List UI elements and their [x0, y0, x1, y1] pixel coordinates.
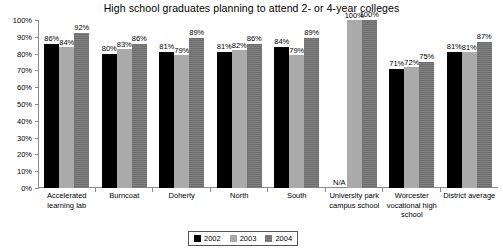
bar-group: 84%79%89%: [268, 20, 326, 188]
y-axis-label: 10%: [17, 167, 32, 176]
bar-cluster: N/A100%100%: [332, 20, 377, 188]
bar-value-label: 84%: [59, 38, 74, 47]
bar-groups: 86%84%92%80%83%86%81%79%89%81%82%86%84%7…: [38, 20, 498, 188]
legend-swatch-icon: [265, 235, 272, 242]
y-axis-label: 40%: [17, 116, 32, 125]
bar-2004: 87%: [477, 42, 492, 188]
legend-item-2002[interactable]: 2002: [194, 234, 221, 243]
bar-cluster: 84%79%89%: [274, 20, 319, 188]
chart-title: High school graduates planning to attend…: [0, 2, 503, 14]
y-axis-label: 80%: [17, 49, 32, 58]
bar-2002: 86%: [44, 44, 59, 188]
bar-group: 71%72%75%: [383, 20, 441, 188]
bar-value-label: 84%: [274, 37, 289, 46]
y-axis-label: 30%: [17, 133, 32, 142]
chart-legend: 200220032004: [188, 231, 298, 246]
category-label: South: [268, 191, 326, 220]
bar-2003: 100%: [347, 20, 362, 188]
bar-value-label: 72%: [404, 58, 419, 67]
category-label: Burncoat: [96, 191, 154, 220]
plot-area: 100%90%80%70%60%50%40%30%20%10%0% 86%84%…: [38, 20, 498, 188]
legend-swatch-icon: [194, 235, 201, 242]
y-axis-label: 90%: [17, 32, 32, 41]
bar-value-label: 79%: [289, 46, 304, 55]
bar-2004: 86%: [132, 44, 147, 188]
bar-value-label: 86%: [247, 34, 262, 43]
bar-2002: 81%: [217, 52, 232, 188]
bar-value-label: 83%: [117, 40, 132, 49]
bar-cluster: 81%79%89%: [159, 20, 204, 188]
y-axis-label: 20%: [17, 150, 32, 159]
bar-2004: 75%: [419, 62, 434, 188]
bar-2003: 79%: [289, 55, 304, 188]
bar-value-label: 89%: [189, 28, 204, 37]
bar-value-label: 86%: [44, 34, 59, 43]
bar-group: 81%79%89%: [153, 20, 211, 188]
legend-swatch-icon: [230, 235, 237, 242]
bar-cluster: 81%82%86%: [217, 20, 262, 188]
category-label: Worcester vocational high school: [383, 191, 441, 220]
bar-value-label: 86%: [132, 34, 147, 43]
y-axis-tick: [35, 188, 39, 189]
y-axis-label: 100%: [13, 16, 32, 25]
bar-2002: 84%: [274, 47, 289, 188]
bar-2003: 82%: [232, 50, 247, 188]
bar-value-label: 80%: [102, 44, 117, 53]
bar-value-label: 92%: [74, 23, 89, 32]
bar-2002: 81%: [447, 52, 462, 188]
y-axis-label: 60%: [17, 83, 32, 92]
bar-value-label: 79%: [174, 46, 189, 55]
bar-2003: 81%: [462, 52, 477, 188]
bar-group: 81%82%86%: [211, 20, 269, 188]
bar-chart: High school graduates planning to attend…: [0, 0, 503, 252]
bar-2003: 79%: [174, 55, 189, 188]
y-axis-label: 0%: [21, 184, 32, 193]
category-labels: Accelerated learning labBurncoatDohertyN…: [38, 191, 498, 220]
legend-label: 2003: [240, 234, 257, 243]
bar-group: 86%84%92%: [38, 20, 96, 188]
y-axis-label: 70%: [17, 66, 32, 75]
bar-cluster: 80%83%86%: [102, 20, 147, 188]
bar-value-label: 75%: [419, 52, 434, 61]
y-axis-label: 50%: [17, 100, 32, 109]
bar-2002: 81%: [159, 52, 174, 188]
bar-value-label: 81%: [217, 42, 232, 51]
bar-value-label: 87%: [477, 32, 492, 41]
legend-item-2004[interactable]: 2004: [265, 234, 292, 243]
bar-2004: 92%: [74, 33, 89, 188]
bar-na-label: N/A: [333, 178, 346, 187]
bar-2002: 71%: [389, 69, 404, 188]
bar-2004: 89%: [189, 38, 204, 188]
bar-group: N/A100%100%: [326, 20, 384, 188]
bar-2004: 86%: [247, 44, 262, 188]
category-label: North: [211, 191, 269, 220]
bar-missing-2002: N/A: [332, 20, 347, 188]
bar-value-label: 100%: [360, 10, 379, 19]
bar-cluster: 86%84%92%: [44, 20, 89, 188]
category-label: University park campus school: [326, 191, 384, 220]
category-label: Accelerated learning lab: [38, 191, 96, 220]
bar-value-label: 71%: [389, 59, 404, 68]
legend-item-2003[interactable]: 2003: [230, 234, 257, 243]
bar-2003: 84%: [59, 47, 74, 188]
bar-value-label: 81%: [447, 42, 462, 51]
bar-2003: 72%: [404, 67, 419, 188]
bar-value-label: 89%: [304, 28, 319, 37]
bar-value-label: 81%: [159, 42, 174, 51]
bar-2004: 89%: [304, 38, 319, 188]
bar-cluster: 71%72%75%: [389, 20, 434, 188]
bar-value-label: 81%: [462, 43, 477, 52]
bar-value-label: 82%: [232, 41, 247, 50]
category-label: District average: [441, 191, 499, 220]
bar-cluster: 81%81%87%: [447, 20, 492, 188]
bar-2002: 80%: [102, 54, 117, 188]
bar-2004: 100%: [362, 20, 377, 188]
bar-2003: 83%: [117, 49, 132, 188]
legend-label: 2004: [275, 234, 292, 243]
category-label: Doherty: [153, 191, 211, 220]
bar-group: 81%81%87%: [441, 20, 499, 188]
legend-label: 2002: [204, 234, 221, 243]
bar-group: 80%83%86%: [96, 20, 154, 188]
